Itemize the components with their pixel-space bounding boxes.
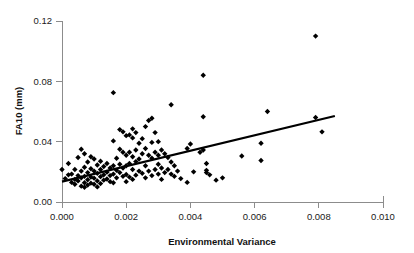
y-tick-label: 0.00 bbox=[34, 196, 53, 207]
x-tick-label: 0.006 bbox=[243, 211, 267, 222]
x-tick-label: 0.010 bbox=[371, 211, 395, 222]
scatter-chart-figure: 0.000.040.080.12 0.0000.0020.0040.0060.0… bbox=[0, 0, 414, 253]
chart-canvas: 0.000.040.080.12 0.0000.0020.0040.0060.0… bbox=[0, 0, 414, 253]
x-tick-label: 0.000 bbox=[50, 211, 74, 222]
x-tick-label: 0.004 bbox=[179, 211, 203, 222]
y-tick-label: 0.08 bbox=[34, 76, 53, 87]
x-tick-label: 0.002 bbox=[114, 211, 138, 222]
x-axis-title: Environmental Variance bbox=[168, 236, 276, 247]
y-tick-label: 0.04 bbox=[34, 136, 53, 147]
x-tick-label: 0.008 bbox=[307, 211, 331, 222]
y-tick-label: 0.12 bbox=[34, 15, 53, 26]
y-axis-title: FA10 (mm) bbox=[13, 87, 24, 136]
